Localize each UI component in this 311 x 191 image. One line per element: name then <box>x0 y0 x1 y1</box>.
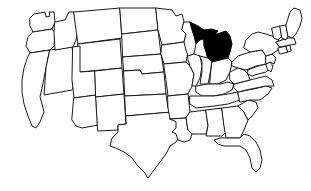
state-florida[interactable] <box>214 134 262 172</box>
state-minnesota[interactable] <box>156 8 186 45</box>
state-kansas[interactable] <box>124 70 166 96</box>
state-wyoming[interactable] <box>78 39 122 72</box>
state-arizona[interactable] <box>72 95 98 128</box>
state-missouri[interactable] <box>164 62 194 96</box>
state-colorado[interactable] <box>95 68 124 97</box>
state-north-dakota[interactable] <box>120 8 158 34</box>
state-south-dakota[interactable] <box>122 30 161 57</box>
state-nevada[interactable] <box>44 47 76 95</box>
state-montana[interactable] <box>74 8 122 44</box>
state-oregon[interactable] <box>26 29 55 53</box>
state-mississippi[interactable] <box>186 110 208 134</box>
state-ohio[interactable] <box>210 58 232 84</box>
state-maine[interactable] <box>286 8 302 38</box>
state-iowa[interactable] <box>161 42 188 64</box>
state-arkansas[interactable] <box>168 94 190 119</box>
us-map-svg <box>0 0 311 191</box>
us-map-figure <box>0 0 311 191</box>
